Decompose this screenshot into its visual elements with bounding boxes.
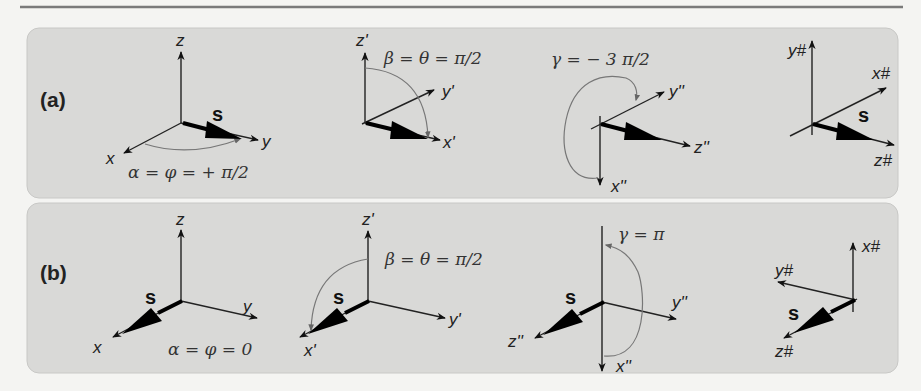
x-prime-axis-label: x' (303, 341, 317, 360)
z-hash-axis-label: z# (873, 151, 893, 170)
x-hash-axis-label: x# (871, 64, 891, 83)
z-axis-label: z (175, 210, 185, 229)
panel-b-background (27, 203, 898, 373)
s-vector-label: s (212, 103, 223, 125)
s-vector-label: s (565, 286, 576, 308)
rotation-angle-label: γ = π (618, 224, 665, 244)
x-axis-label: x (105, 149, 115, 168)
s-vector-label: s (858, 104, 869, 126)
x-prime-axis-label: x' (442, 133, 456, 152)
euler-rotation-figure: (a) z x y s α = φ = + π/2 z' y' x' (0, 0, 921, 391)
panel-a: (a) z x y s α = φ = + π/2 z' y' x' (27, 28, 898, 198)
z-prime-axis-label: z' (355, 31, 369, 50)
z-double-prime-axis-label: z'' (693, 138, 710, 157)
s-vector-label: s (788, 302, 799, 324)
y-double-prime-axis-label: y'' (671, 293, 688, 312)
panel-a-label: (a) (40, 88, 66, 111)
panel-b-label: (b) (40, 261, 67, 284)
y-prime-axis-label: y' (448, 310, 462, 329)
panel-b: (b) z y x s α = φ = 0 z' y' x' s β = (27, 203, 898, 376)
y-hash-axis-label: y# (787, 41, 807, 60)
z-double-prime-axis-label: z'' (507, 332, 524, 351)
z-prime-axis-label: z' (361, 210, 375, 229)
z-hash-axis-label: z# (774, 342, 794, 361)
z-axis-label: z (175, 31, 185, 50)
s-vector-label: s (333, 286, 344, 308)
x-double-prime-axis-label: x'' (615, 357, 632, 376)
x-double-prime-axis-label: x'' (610, 177, 627, 196)
x-axis-label: x (92, 338, 102, 357)
y-prime-axis-label: y' (441, 82, 455, 101)
y-double-prime-axis-label: y'' (668, 82, 685, 101)
x-hash-axis-label: x# (861, 237, 881, 256)
rotation-angle-label: α = φ = + π/2 (128, 162, 249, 182)
y-axis-label: y (242, 297, 253, 316)
y-hash-axis-label: y# (774, 261, 794, 280)
rotation-angle-label: α = φ = 0 (168, 339, 252, 359)
rotation-angle-label: β = θ = π/2 (383, 48, 482, 68)
s-vector-label: s (145, 286, 156, 308)
rotation-angle-label: β = θ = π/2 (384, 249, 483, 269)
rotation-angle-label: γ = − 3 π/2 (551, 49, 650, 69)
y-axis-label: y (261, 132, 272, 151)
